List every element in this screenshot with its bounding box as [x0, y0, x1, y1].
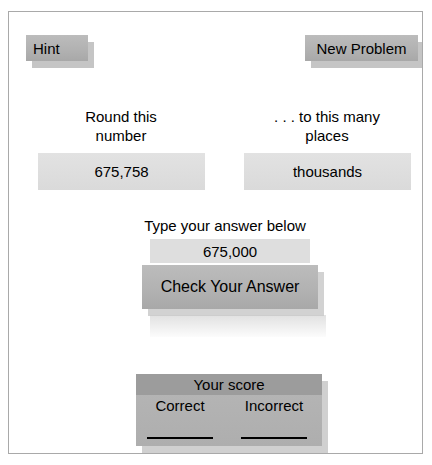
score-panel-title: Your score [136, 374, 322, 395]
score-column-incorrect: Incorrect [232, 397, 316, 439]
new-problem-button[interactable]: New Problem [305, 35, 418, 61]
answer-input[interactable] [150, 239, 310, 263]
type-answer-instruction-label: Type your answer below [125, 217, 325, 234]
score-column-correct: Correct [138, 397, 222, 439]
to-this-many-places-label: . . . to this manyplaces [237, 107, 417, 145]
rounding-place-value: thousands [244, 153, 411, 190]
check-your-answer-button[interactable]: Check Your Answer [142, 265, 318, 309]
hint-button[interactable]: Hint [26, 35, 88, 61]
score-correct-label: Correct [138, 397, 222, 415]
check-button-reflection [150, 315, 326, 337]
number-to-round-value: 675,758 [38, 153, 205, 190]
score-correct-value [147, 437, 213, 439]
score-incorrect-label: Incorrect [232, 397, 316, 415]
score-incorrect-value [241, 437, 307, 439]
application-frame: Hint New Problem Round thisnumber 675,75… [8, 11, 423, 454]
score-panel: Your score Correct Incorrect [136, 374, 322, 446]
round-this-number-label: Round thisnumber [31, 107, 211, 145]
